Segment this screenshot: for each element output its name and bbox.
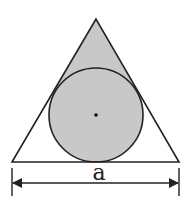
diagram-canvas: a (0, 0, 188, 207)
dimension-label: a (92, 160, 105, 185)
center-point (94, 113, 98, 117)
